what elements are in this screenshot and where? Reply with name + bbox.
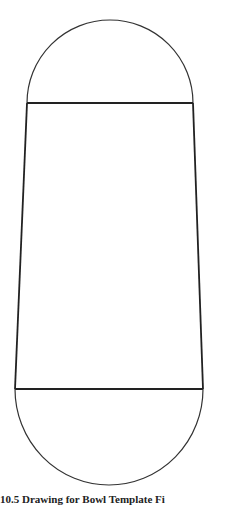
figure-caption: 10.5 Drawing for Bowl Template Fi [0, 493, 240, 505]
top-semicircle-arc [27, 20, 193, 103]
bottom-semicircle-arc [15, 389, 203, 485]
right-side-line [193, 103, 203, 389]
left-side-line [15, 103, 27, 389]
